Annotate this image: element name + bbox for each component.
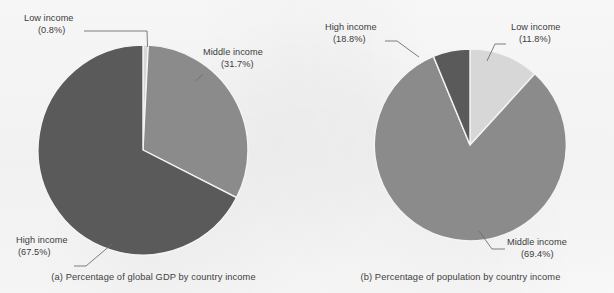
callout-high-income-value: (18.8%)	[325, 34, 377, 46]
callout-low-income-value: (0.8%)	[24, 25, 74, 37]
callout-low-income: Low income (11.8%)	[511, 22, 561, 45]
callout-high-income: High income (67.5%)	[16, 235, 68, 258]
callout-middle-income-name: Middle income	[203, 47, 263, 57]
callout-high-income-name: High income	[325, 22, 377, 32]
chart-panel-gdp: Low income (0.8%) Middle income (31.7%) …	[0, 0, 307, 293]
caption-panel-b: (b) Percentage of population by country …	[307, 272, 614, 282]
callout-high-income-name: High income	[16, 235, 68, 245]
chart-panel-population: High income (18.8%) Low income (11.8%) M…	[307, 0, 614, 293]
callout-middle-income-name: Middle income	[507, 237, 567, 247]
callout-middle-income-value: (69.4%)	[507, 249, 567, 261]
leader-line-high-income	[385, 41, 419, 57]
caption-panel-a: (a) Percentage of global GDP by country …	[0, 272, 307, 282]
callout-low-income-value: (11.8%)	[511, 34, 561, 46]
callout-high-income-value: (67.5%)	[16, 247, 68, 259]
callout-low-income-name: Low income	[511, 22, 561, 32]
callout-low-income-name: Low income	[24, 13, 74, 23]
callout-high-income: High income (18.8%)	[325, 22, 377, 45]
callout-low-income: Low income (0.8%)	[24, 13, 74, 36]
callout-middle-income: Middle income (31.7%)	[203, 47, 263, 70]
callout-middle-income: Middle income (69.4%)	[507, 237, 567, 260]
callout-middle-income-value: (31.7%)	[203, 59, 263, 71]
